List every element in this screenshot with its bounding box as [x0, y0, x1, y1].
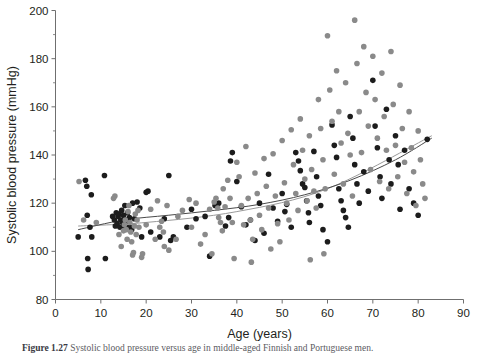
data-point — [307, 133, 313, 139]
data-point — [102, 173, 108, 179]
data-point — [370, 53, 376, 59]
data-point — [279, 138, 285, 144]
data-points — [75, 17, 430, 272]
data-point — [84, 212, 90, 218]
data-point — [193, 216, 199, 222]
data-point — [345, 131, 351, 137]
y-tick-label: 180 — [29, 53, 48, 65]
data-point — [126, 203, 132, 209]
data-point — [127, 220, 133, 226]
data-point — [379, 70, 385, 76]
data-point — [152, 236, 158, 242]
data-point — [343, 80, 349, 86]
data-point — [393, 133, 399, 139]
data-point — [393, 143, 399, 149]
data-point — [288, 127, 294, 133]
data-point — [227, 196, 233, 202]
data-point — [228, 158, 234, 164]
data-point — [257, 212, 263, 218]
data-point — [89, 192, 95, 198]
data-point — [352, 17, 358, 23]
data-point — [266, 205, 272, 211]
data-point — [231, 256, 237, 262]
data-point — [307, 220, 313, 226]
data-point — [311, 188, 317, 194]
data-point — [375, 145, 381, 151]
data-point — [316, 193, 322, 199]
data-point — [347, 152, 353, 158]
data-point — [128, 229, 134, 235]
data-point — [84, 184, 90, 190]
x-tick-label: 20 — [140, 307, 153, 319]
data-point — [239, 203, 245, 209]
data-point — [140, 251, 146, 257]
data-point — [234, 159, 240, 165]
data-point — [347, 114, 353, 120]
data-point — [302, 176, 308, 182]
data-point — [313, 205, 319, 211]
data-point — [248, 217, 254, 223]
data-point — [336, 186, 342, 192]
data-point — [418, 157, 424, 163]
data-point — [131, 250, 137, 256]
data-point — [257, 200, 263, 206]
data-point — [189, 206, 195, 212]
data-point — [193, 200, 199, 206]
x-tick-label: 70 — [366, 307, 379, 319]
data-point — [354, 181, 360, 187]
data-point — [298, 116, 304, 122]
data-point — [220, 186, 226, 192]
y-tick-label: 120 — [29, 197, 48, 209]
data-point — [155, 198, 161, 204]
data-point — [277, 239, 283, 245]
y-tick-label: 160 — [29, 101, 48, 113]
data-point — [85, 256, 91, 262]
data-point — [388, 49, 394, 55]
data-point — [209, 251, 215, 257]
data-point — [288, 224, 294, 230]
data-point — [320, 157, 326, 163]
data-point — [134, 199, 140, 205]
data-point — [286, 217, 292, 223]
data-point — [103, 256, 109, 262]
data-point — [241, 222, 247, 228]
data-point — [230, 220, 236, 226]
data-point — [386, 157, 392, 163]
data-point — [332, 143, 338, 149]
data-point — [332, 171, 338, 177]
data-point — [161, 229, 167, 235]
data-point — [322, 186, 328, 192]
data-point — [350, 135, 356, 141]
data-point — [87, 224, 93, 230]
x-tick-label: 10 — [94, 307, 107, 319]
data-point — [234, 179, 240, 185]
data-point — [402, 147, 408, 153]
data-point — [164, 203, 170, 209]
data-point — [321, 251, 327, 257]
data-point — [377, 179, 383, 185]
data-point — [202, 214, 208, 220]
x-tick-label: 90 — [457, 307, 470, 319]
data-point — [166, 247, 172, 253]
data-point — [366, 123, 372, 129]
y-tick-label: 140 — [29, 149, 48, 161]
data-point — [250, 236, 256, 242]
data-point — [245, 196, 251, 202]
data-point — [122, 222, 128, 228]
data-point — [222, 204, 228, 210]
data-point — [415, 212, 421, 218]
data-point — [226, 215, 232, 221]
data-point — [375, 135, 381, 141]
data-point — [134, 217, 140, 223]
data-point — [230, 150, 236, 156]
data-point — [316, 97, 322, 103]
data-point — [268, 246, 274, 252]
data-point — [409, 145, 415, 151]
data-point — [361, 44, 367, 50]
data-point — [300, 147, 306, 153]
data-point — [136, 224, 142, 230]
data-point — [81, 217, 87, 223]
x-tick-label: 50 — [276, 307, 289, 319]
data-point — [356, 109, 362, 115]
